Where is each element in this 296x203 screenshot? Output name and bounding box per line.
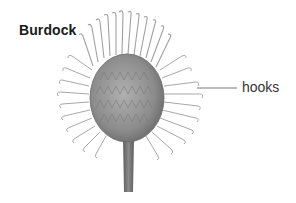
burr-head [90, 54, 164, 142]
hooks-label: hooks [242, 79, 279, 95]
burdock-burr-illustration [0, 0, 296, 203]
stem [123, 138, 134, 192]
